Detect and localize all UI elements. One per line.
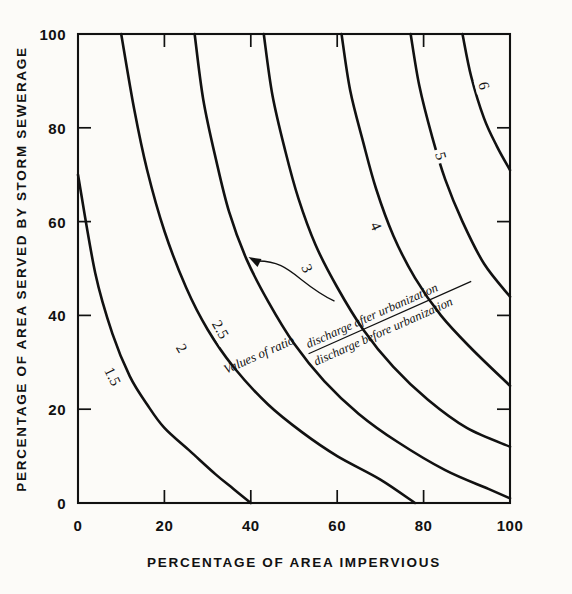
y-axis-title: PERCENTAGE OF AREA SERVED BY STORM SEWER…	[14, 46, 29, 491]
x-tick-label-20: 20	[156, 517, 174, 534]
figure-container: 1.522.53456 020406080100 020406080100 PE…	[0, 0, 572, 594]
contour-chart: 1.522.53456 020406080100 020406080100 PE…	[0, 0, 572, 594]
y-tick-label-0: 0	[57, 495, 66, 512]
y-tick-label-40: 40	[48, 307, 66, 324]
x-axis-title: PERCENTAGE OF AREA IMPERVIOUS	[147, 555, 441, 570]
x-tick-label-80: 80	[415, 517, 433, 534]
x-tick-label-100: 100	[497, 517, 524, 534]
x-tick-label-40: 40	[242, 517, 260, 534]
x-tick-label-0: 0	[74, 517, 83, 534]
y-tick-label-60: 60	[48, 214, 66, 231]
y-tick-label-80: 80	[48, 120, 66, 137]
y-axis-title-group: PERCENTAGE OF AREA SERVED BY STORM SEWER…	[14, 46, 29, 491]
y-tick-label-20: 20	[48, 401, 66, 418]
x-axis-title-group: PERCENTAGE OF AREA IMPERVIOUS	[147, 555, 441, 570]
x-tick-label-60: 60	[328, 517, 346, 534]
y-tick-label-100: 100	[39, 26, 66, 43]
